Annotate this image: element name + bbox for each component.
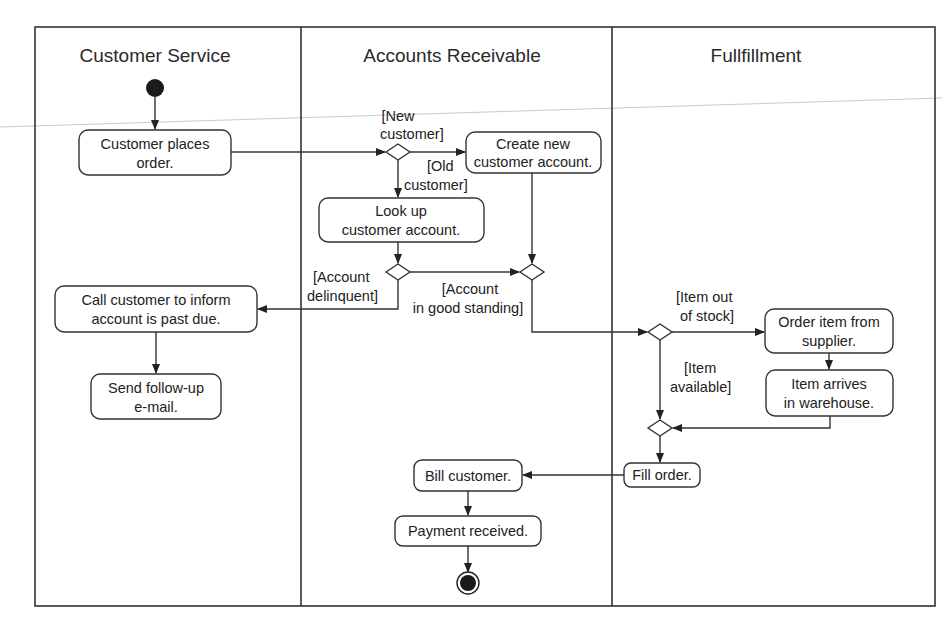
svg-text:customer account.: customer account. (342, 222, 460, 238)
activity-call-customer: Call customer to inform account is past … (55, 286, 257, 332)
decision-customer-type-icon (386, 144, 410, 160)
lane-title-fulfillment: Fullfillment (711, 45, 803, 66)
decision-stock-icon (648, 324, 672, 340)
activity-fill-order: Fill order. (624, 463, 700, 487)
svg-text:Fill order.: Fill order. (632, 467, 692, 483)
activity-send-email: Send follow-up e-mail. (91, 374, 221, 419)
guard-old-customer-2: customer] (404, 177, 468, 193)
activity-order-item: Order item from supplier. (765, 309, 893, 353)
svg-text:Send follow-up: Send follow-up (108, 380, 204, 396)
initial-node-icon (146, 79, 164, 97)
activity-lookup-account: Look up customer account. (319, 198, 484, 242)
edge-arrives-to-merge (673, 416, 830, 428)
svg-text:order.: order. (136, 155, 173, 171)
guard-account-delinquent: [Account (313, 269, 369, 285)
activity-bill-customer: Bill customer. (414, 460, 522, 491)
activity-item-arrives: Item arrives in warehouse. (766, 370, 893, 416)
svg-text:Create new: Create new (496, 136, 571, 152)
guard-new-customer: [New (381, 108, 415, 124)
svg-text:supplier.: supplier. (802, 333, 856, 349)
guard-item-available-2: available] (670, 379, 731, 395)
guard-item-out-of-stock-2: of stock] (680, 308, 734, 324)
svg-text:Look up: Look up (375, 203, 427, 219)
guard-old-customer: [Old (427, 158, 454, 174)
svg-text:Item arrives: Item arrives (791, 376, 867, 392)
activity-payment-received: Payment received. (395, 516, 541, 546)
activity-diagram: Customer Service Accounts Receivable Ful… (0, 0, 942, 631)
edge-merge-to-stock-decision (532, 280, 647, 332)
svg-text:Bill customer.: Bill customer. (425, 468, 511, 484)
svg-text:Call customer to inform: Call customer to inform (81, 292, 230, 308)
guard-account-delinquent-2: delinquent] (307, 288, 378, 304)
final-node-icon (457, 572, 479, 594)
svg-text:Order item from: Order item from (778, 314, 880, 330)
lane-title-accounts-receivable: Accounts Receivable (363, 45, 540, 66)
guard-account-good-2: in good standing] (413, 300, 523, 316)
merge-account-icon (520, 264, 544, 280)
lane-title-customer-service: Customer Service (80, 45, 231, 66)
svg-text:customer account.: customer account. (474, 154, 592, 170)
activity-place-order: Customer places order. (79, 130, 231, 175)
activity-create-account: Create new customer account. (466, 132, 601, 173)
svg-text:Payment received.: Payment received. (408, 523, 528, 539)
guard-item-out-of-stock: [Item out (676, 289, 732, 305)
guard-account-good: [Account (442, 281, 498, 297)
decision-account-status-icon (386, 264, 410, 280)
guard-new-customer-2: customer] (380, 126, 444, 142)
merge-stock-icon (648, 420, 672, 436)
svg-text:in warehouse.: in warehouse. (784, 395, 874, 411)
svg-text:Customer places: Customer places (101, 136, 210, 152)
scan-artifact-line (0, 98, 942, 127)
guard-item-available: [Item (684, 360, 716, 376)
svg-text:account is past due.: account is past due. (92, 311, 221, 327)
svg-text:e-mail.: e-mail. (134, 399, 178, 415)
